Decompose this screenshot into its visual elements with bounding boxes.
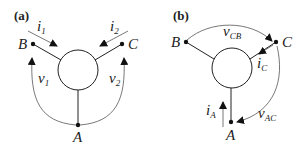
panel-b-tag: (b) bbox=[173, 8, 189, 23]
current-arrow-ic bbox=[259, 45, 273, 54]
node-b-label: B bbox=[171, 34, 180, 50]
current-label-ic: iC bbox=[257, 55, 268, 73]
terminal-c-dot bbox=[274, 40, 278, 44]
voltage-label-v2: v2 bbox=[109, 70, 121, 88]
terminal-c-dot bbox=[120, 42, 124, 46]
current-label-ia: iA bbox=[206, 102, 216, 120]
current-label-i2: i2 bbox=[110, 18, 119, 36]
terminal-a-dot bbox=[229, 120, 233, 124]
voltage-label-vac: vAC bbox=[258, 105, 277, 123]
lead-c bbox=[250, 42, 276, 59]
voltage-arc-v2 bbox=[80, 58, 124, 125]
lead-b bbox=[33, 44, 61, 60]
lead-c bbox=[95, 44, 122, 60]
device-circle bbox=[212, 48, 252, 88]
terminal-b-dot bbox=[31, 42, 35, 46]
device-circle bbox=[58, 50, 98, 90]
current-label-i1: i1 bbox=[37, 18, 46, 36]
terminal-b-dot bbox=[184, 40, 188, 44]
voltage-arc-v1 bbox=[32, 58, 76, 125]
node-c-label: C bbox=[128, 36, 139, 52]
panel-a: (a) B C A i1 i2 v1 v2 bbox=[14, 8, 139, 145]
node-b-label: B bbox=[18, 36, 27, 52]
panel-a-tag: (a) bbox=[14, 8, 29, 23]
node-a-label: A bbox=[225, 127, 236, 143]
terminal-a-dot bbox=[76, 123, 80, 127]
lead-b bbox=[186, 42, 214, 59]
node-a-label: A bbox=[72, 129, 83, 145]
node-c-label: C bbox=[282, 34, 293, 50]
panel-b: (b) B C A vCB iC vAC iA bbox=[171, 8, 293, 143]
three-terminal-device-diagram: (a) B C A i1 i2 v1 v2 (b) B C bbox=[0, 0, 303, 147]
voltage-label-v1: v1 bbox=[38, 70, 49, 88]
